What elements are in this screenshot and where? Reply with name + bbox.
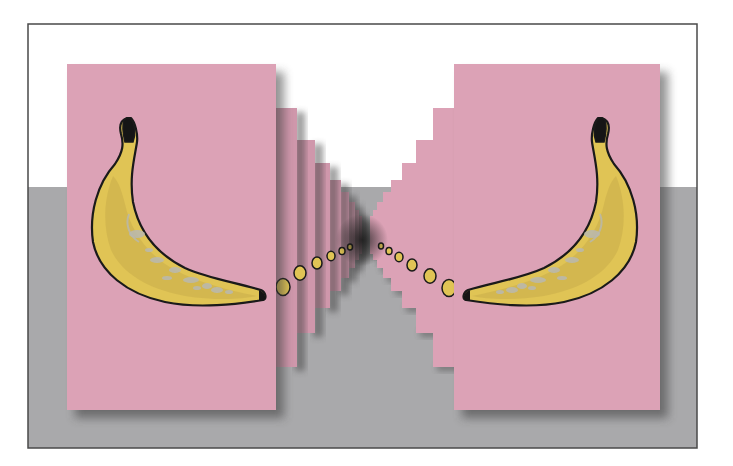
banana-stem — [594, 118, 606, 142]
banana-tip-peek — [312, 257, 322, 269]
left-front-card — [67, 64, 284, 418]
banana-bruise — [169, 267, 181, 273]
banana-tip-peek — [407, 259, 417, 271]
banana-bruise — [145, 248, 153, 252]
banana-bruise — [225, 290, 233, 294]
banana-bruise — [506, 287, 518, 293]
banana-tip-peek — [395, 252, 403, 262]
banana-bruise — [150, 257, 164, 263]
banana-bruise — [162, 276, 172, 280]
banana-bruise — [202, 283, 212, 289]
vanishing-point-shadow — [336, 214, 388, 266]
banana-bruise — [193, 286, 201, 290]
banana-bruise — [548, 267, 560, 273]
banana-tip-peek — [424, 269, 436, 283]
banana-bruise — [211, 287, 223, 293]
banana-tip-peek — [386, 247, 392, 254]
banana-bruise — [565, 257, 579, 263]
right-front-card — [454, 64, 668, 418]
banana-bruise — [183, 277, 199, 283]
banana-bruise — [496, 290, 504, 294]
banana-tip-peek — [327, 251, 335, 261]
banana-bruise — [557, 276, 567, 280]
banana-bruise — [517, 283, 527, 289]
banana-bruise — [528, 286, 536, 290]
banana-bruise — [530, 277, 546, 283]
banana-card-scene — [0, 0, 733, 466]
banana-tip-peek — [442, 280, 456, 297]
banana-bruise — [576, 248, 584, 252]
banana-stem — [123, 118, 135, 142]
banana-tip-peek — [294, 266, 306, 280]
